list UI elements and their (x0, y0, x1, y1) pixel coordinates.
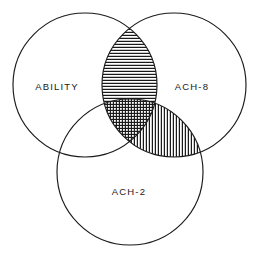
ach2-set-label: ACH-2 (112, 186, 146, 197)
ability-set-label: ABILITY (35, 81, 78, 92)
venn-diagram-figure: ABILITY ACH-8 ACH-2 (0, 0, 262, 262)
venn-diagram-canvas: ABILITY ACH-8 ACH-2 (0, 0, 262, 262)
ach8-set-label: ACH-8 (175, 81, 209, 92)
